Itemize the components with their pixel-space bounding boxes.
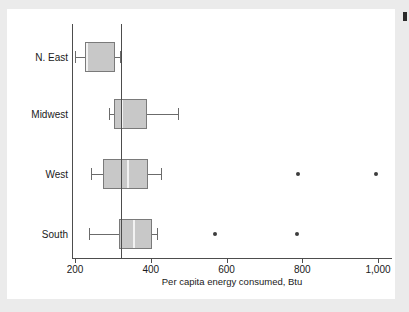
y-axis-line bbox=[72, 24, 73, 259]
x-tick-label-200: 200 bbox=[67, 264, 84, 275]
outlier-point-west-2 bbox=[374, 172, 378, 176]
outlier-point-south-1 bbox=[213, 232, 217, 236]
box-n-east bbox=[85, 42, 115, 72]
category-label-south: South bbox=[42, 229, 68, 240]
outlier-point-south-2 bbox=[295, 232, 299, 236]
corner-marker bbox=[403, 12, 407, 21]
x-tick-600 bbox=[227, 259, 228, 263]
whisker-cap-low-west bbox=[91, 168, 92, 180]
y-axis-category-labels: N. EastMidwestWestSouth bbox=[0, 0, 68, 312]
median-line-n-east bbox=[86, 43, 88, 71]
x-tick-200 bbox=[75, 259, 76, 263]
x-tick-label-600: 600 bbox=[218, 264, 235, 275]
whisker-cap-low-south bbox=[89, 228, 90, 240]
x-tick-1000 bbox=[378, 259, 379, 263]
whisker-cap-high-midwest bbox=[178, 108, 179, 120]
box-west bbox=[103, 159, 148, 189]
chart-screenshot: 2004006008001,000 N. EastMidwestWestSout… bbox=[0, 0, 409, 312]
whisker-cap-high-west bbox=[161, 168, 162, 180]
x-tick-800 bbox=[302, 259, 303, 263]
category-label-n-east: N. East bbox=[35, 52, 68, 63]
whisker-cap-high-south bbox=[157, 228, 158, 240]
reference-line bbox=[121, 24, 122, 258]
box-south bbox=[119, 219, 152, 249]
x-axis-title: Per capita energy consumed, Btu bbox=[162, 276, 302, 287]
x-tick-label-1000: 1,000 bbox=[365, 264, 390, 275]
whisker-high-midwest bbox=[147, 114, 178, 115]
whisker-low-west bbox=[91, 174, 103, 175]
outlier-point-west-1 bbox=[296, 172, 300, 176]
median-line-south bbox=[133, 220, 135, 248]
category-label-west: West bbox=[45, 169, 68, 180]
median-line-west bbox=[127, 160, 129, 188]
x-tick-400 bbox=[151, 259, 152, 263]
category-label-midwest: Midwest bbox=[31, 109, 68, 120]
whisker-low-n-east bbox=[75, 57, 85, 58]
x-tick-label-800: 800 bbox=[294, 264, 311, 275]
whisker-low-south bbox=[89, 234, 119, 235]
whisker-cap-low-midwest bbox=[109, 108, 110, 120]
whisker-high-west bbox=[148, 174, 160, 175]
x-axis-line bbox=[72, 258, 392, 259]
x-tick-label-400: 400 bbox=[142, 264, 159, 275]
plot-area bbox=[72, 24, 392, 258]
box-midwest bbox=[114, 99, 147, 129]
whisker-cap-low-n-east bbox=[75, 51, 76, 63]
